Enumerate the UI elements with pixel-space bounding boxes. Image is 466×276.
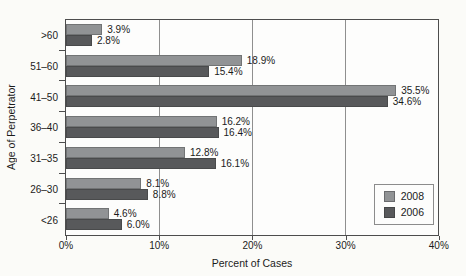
category-label: 41–50 <box>30 91 58 102</box>
x-tick-label: 0% <box>59 240 73 251</box>
x-tick-label: 20% <box>242 240 262 251</box>
category-label: >60 <box>41 30 58 41</box>
bar-chart-figure: Age of Perpetrator >603.9%2.8%51–6018.9%… <box>0 0 466 276</box>
bar-2006-4 <box>66 158 216 169</box>
y-axis-tick <box>59 142 65 143</box>
y-axis-tick <box>59 203 65 204</box>
bar-value-label: 18.9% <box>247 55 275 66</box>
category-label: 51–60 <box>30 61 58 72</box>
bar-value-label: 35.5% <box>401 85 429 96</box>
bar-2006-1 <box>66 66 209 77</box>
legend-swatch-2006 <box>384 207 395 218</box>
legend-entry-2006: 2006 <box>384 207 424 218</box>
bar-value-label: 3.9% <box>107 24 130 35</box>
legend: 20082006 <box>374 184 434 225</box>
category-label: 36–40 <box>30 122 58 133</box>
plot-area: >603.9%2.8%51–6018.9%15.4%41–5035.5%34.6… <box>65 19 439 236</box>
bar-value-label: 16.2% <box>222 116 250 127</box>
bar-2008-5 <box>66 178 141 189</box>
bar-value-label: 6.0% <box>127 219 150 230</box>
bar-value-label: 16.1% <box>221 158 249 169</box>
legend-entry-2008: 2008 <box>384 191 424 202</box>
category-row-4: 31–3512.8%16.1% <box>66 143 438 174</box>
category-row-3: 36–4016.2%16.4% <box>66 112 438 143</box>
bar-2008-1 <box>66 55 242 66</box>
y-axis-tick <box>59 173 65 174</box>
y-axis-title: Age of Perpetrator <box>4 19 18 236</box>
legend-label: 2006 <box>401 207 424 218</box>
bar-2008-2 <box>66 85 396 96</box>
y-axis-tick <box>59 50 65 51</box>
x-axis-title: Percent of Cases <box>65 257 439 269</box>
x-tick-label: 30% <box>336 240 356 251</box>
bar-2006-5 <box>66 189 148 200</box>
bar-value-label: 8.8% <box>153 189 176 200</box>
legend-swatch-2008 <box>384 191 395 202</box>
category-label: 31–35 <box>30 153 58 164</box>
bar-value-label: 34.6% <box>393 96 421 107</box>
category-row-1: 51–6018.9%15.4% <box>66 51 438 82</box>
bar-2006-0 <box>66 35 92 46</box>
category-label: 26–30 <box>30 183 58 194</box>
y-axis-tick <box>59 80 65 81</box>
bar-value-label: 2.8% <box>97 35 120 46</box>
bar-2006-3 <box>66 127 219 138</box>
x-tick-label: 10% <box>149 240 169 251</box>
category-row-0: >603.9%2.8% <box>66 20 438 51</box>
y-axis-tick <box>59 111 65 112</box>
bar-2006-6 <box>66 219 122 230</box>
bar-value-label: 4.6% <box>114 208 137 219</box>
category-label: <26 <box>41 214 58 225</box>
bar-2008-6 <box>66 208 109 219</box>
bar-value-label: 8.1% <box>146 178 169 189</box>
bar-2008-0 <box>66 24 102 35</box>
legend-label: 2008 <box>401 191 424 202</box>
x-tick-label: 40% <box>429 240 449 251</box>
bar-value-label: 16.4% <box>224 127 252 138</box>
bar-2008-4 <box>66 147 185 158</box>
bar-value-label: 15.4% <box>214 66 242 77</box>
category-row-2: 41–5035.5%34.6% <box>66 81 438 112</box>
bar-2006-2 <box>66 96 388 107</box>
bar-value-label: 12.8% <box>190 147 218 158</box>
bar-2008-3 <box>66 116 217 127</box>
